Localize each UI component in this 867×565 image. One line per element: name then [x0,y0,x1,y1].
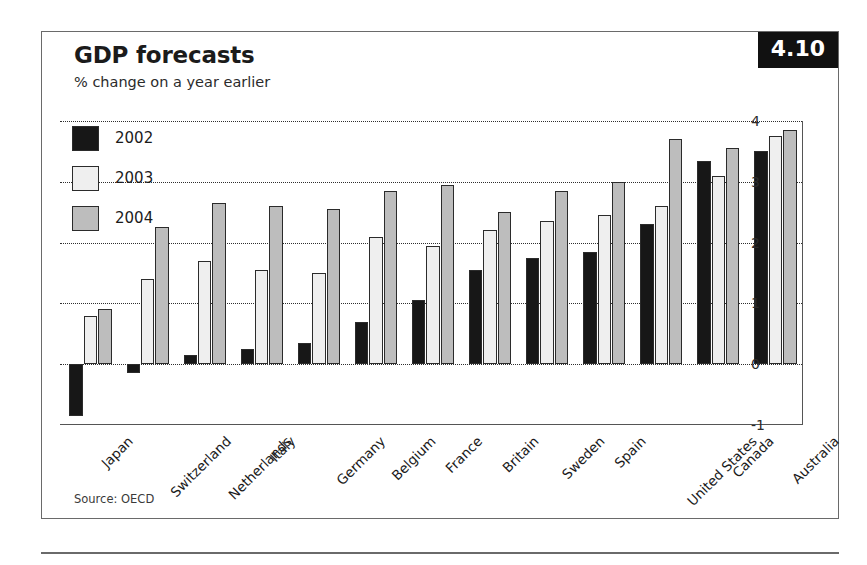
bar [198,261,211,364]
bar-group [469,121,511,425]
bar [526,258,539,364]
legend-swatch-2003 [72,166,99,191]
bar [655,206,668,364]
bar [441,185,454,364]
bar [640,224,653,364]
x-axis-line [60,424,802,425]
bar-group [697,121,739,425]
bar [255,270,268,364]
bar [583,252,596,364]
bar [783,130,796,364]
bar-group [412,121,454,425]
bar-group [241,121,283,425]
bar-group [355,121,397,425]
bar [769,136,782,364]
bar [212,203,225,364]
legend-item: 2003 [72,158,153,198]
plot-area [60,121,802,425]
bar [726,148,739,364]
legend-label: 2004 [115,209,153,227]
bar [355,322,368,365]
chart-title: GDP forecasts [74,42,255,68]
bar [555,191,568,364]
bar [298,343,311,364]
bar [241,349,254,364]
bar-group [583,121,625,425]
bar [127,364,140,373]
source-note: Source: OECD [74,492,154,506]
bar [540,221,553,364]
legend-swatch-2004 [72,206,99,231]
bar-group [754,121,796,425]
y-axis-tick-label: 0 [751,356,760,372]
bar [69,364,82,416]
bar [426,246,439,365]
chart-number-badge: 4.10 [758,32,838,68]
y-axis-tick-label: 1 [751,295,760,311]
bar [141,279,154,364]
bar [498,212,511,364]
legend-item: 2004 [72,198,153,238]
bar [269,206,282,364]
y-axis-tick-label: 3 [751,174,760,190]
bottom-divider [41,552,839,554]
bar [98,309,111,364]
bar-groups [60,121,802,425]
bar [412,300,425,364]
bar [483,230,496,364]
bar [184,355,197,364]
y-axis-tick-label: 2 [751,235,760,251]
y-axis-tick-label: -1 [751,417,765,433]
bar [312,273,325,364]
legend-swatch-2002 [72,126,99,151]
bar-group [526,121,568,425]
bar [712,176,725,364]
bar [697,161,710,365]
bar [155,227,168,364]
bar [384,191,397,364]
y-axis-line [802,121,803,425]
chart-subtitle: % change on a year earlier [74,74,270,90]
bar-group [184,121,226,425]
legend-label: 2003 [115,169,153,187]
bar [669,139,682,364]
bar [84,316,97,365]
legend-label: 2002 [115,129,153,147]
bar-group [640,121,682,425]
y-axis-tick-label: 4 [751,113,760,129]
bar-group [298,121,340,425]
bar [612,182,625,364]
chart-legend: 200220032004 [72,118,153,238]
legend-item: 2002 [72,118,153,158]
bar [327,209,340,364]
bar [598,215,611,364]
bar [469,270,482,364]
bar [369,237,382,365]
